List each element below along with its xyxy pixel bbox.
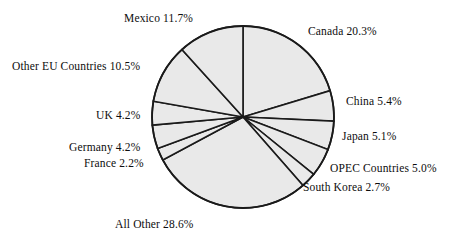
- label-canada: Canada20.3%: [308, 26, 377, 38]
- label-china: China5.4%: [346, 96, 402, 108]
- label-mexico-pct: 11.7%: [163, 12, 193, 24]
- label-uk-pct: 4.2%: [116, 109, 141, 121]
- label-germany-pct: 4.2%: [116, 141, 141, 153]
- label-other-eu-countries-pct: 10.5%: [110, 60, 140, 72]
- label-france-pct: 2.2%: [119, 157, 144, 169]
- pie-chart-canvas: [0, 0, 470, 244]
- label-china-name: China: [346, 95, 374, 107]
- label-all-other: All Other28.6%: [115, 219, 194, 231]
- label-canada-name: Canada: [308, 25, 343, 37]
- label-mexico-name: Mexico: [124, 12, 160, 24]
- label-uk: UK4.2%: [96, 110, 140, 122]
- label-south-korea: South Korea2.7%: [303, 182, 390, 194]
- label-canada-pct: 20.3%: [346, 25, 376, 37]
- label-china-pct: 5.4%: [377, 95, 402, 107]
- label-mexico: Mexico11.7%: [124, 13, 193, 25]
- label-opec-countries-name: OPEC Countries: [330, 162, 409, 174]
- label-south-korea-pct: 2.7%: [365, 181, 390, 193]
- label-other-eu-countries: Other EU Countries10.5%: [12, 61, 140, 73]
- label-france-name: France: [84, 157, 116, 169]
- label-other-eu-countries-name: Other EU Countries: [12, 60, 107, 72]
- label-all-other-name: All Other: [115, 218, 160, 230]
- label-japan-name: Japan: [342, 130, 369, 142]
- label-uk-name: UK: [96, 109, 113, 121]
- label-germany: Germany4.2%: [69, 142, 140, 154]
- label-germany-name: Germany: [69, 141, 113, 153]
- label-opec-countries-pct: 5.0%: [412, 162, 437, 174]
- label-japan: Japan5.1%: [342, 131, 397, 143]
- label-france: France2.2%: [84, 158, 144, 170]
- label-japan-pct: 5.1%: [372, 130, 397, 142]
- pie-chart-figure: Mexico11.7% Canada20.3% Other EU Countri…: [0, 0, 470, 244]
- label-opec-countries: OPEC Countries5.0%: [330, 163, 437, 175]
- label-all-other-pct: 28.6%: [163, 218, 193, 230]
- label-south-korea-name: South Korea: [303, 181, 362, 193]
